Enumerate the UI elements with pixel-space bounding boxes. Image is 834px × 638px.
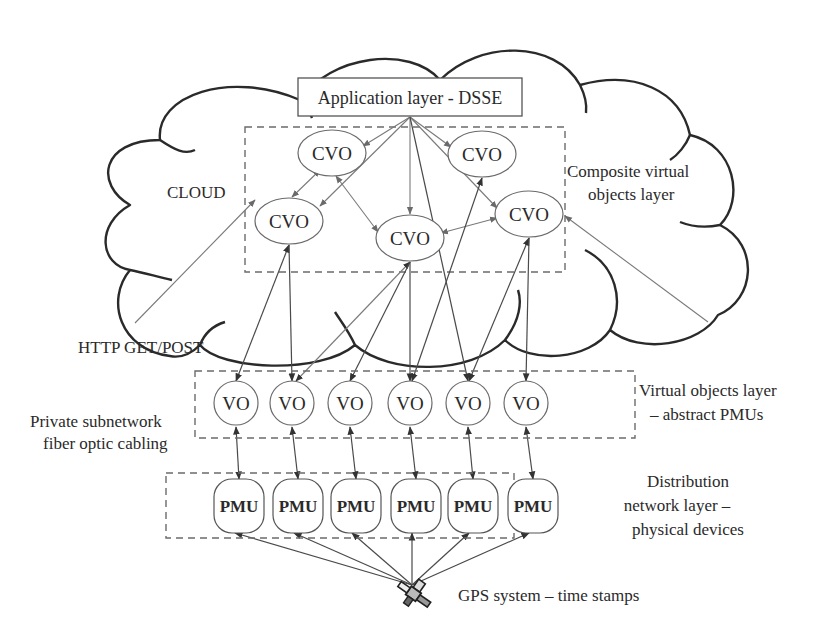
application-layer-label: Application layer - DSSE: [318, 88, 502, 108]
pmu-node: PMU: [214, 479, 264, 533]
pmu-label: PMU: [514, 497, 553, 516]
vo-label: VO: [278, 393, 305, 414]
vo-label: VO: [222, 393, 249, 414]
vo-layer-label-line2: – abstract PMUs: [649, 405, 763, 424]
pmu-label: PMU: [454, 497, 493, 516]
cvo-node: CVO: [298, 130, 366, 176]
vo-node: VO: [270, 381, 314, 425]
pmu-layer-label-line2: network layer –: [624, 496, 731, 515]
http-label: HTTP GET/POST: [78, 338, 204, 357]
vo-label: VO: [336, 393, 363, 414]
cvo-node: CVO: [495, 191, 563, 237]
private-network-label-line1: Private subnetwork: [30, 412, 162, 431]
vo-to-pmu-edge: [350, 427, 356, 479]
vo-to-pmu-edge: [410, 427, 416, 479]
private-network-label-line2: fiber optic cabling: [43, 434, 168, 453]
cvo-node: CVO: [376, 215, 444, 261]
gps-to-pmu-edge: [235, 533, 412, 585]
pmu-layer-label-line1: Distribution: [647, 472, 730, 491]
gps-label: GPS system – time stamps: [458, 586, 639, 605]
cvo-label: CVO: [390, 228, 430, 249]
pmu-node: PMU: [273, 479, 323, 533]
pmu-node: PMU: [331, 479, 381, 533]
pmu-node: PMU: [391, 479, 441, 533]
architecture-diagram: CLOUD Composite virtual objects layer Ap…: [0, 0, 834, 638]
cvo-node: CVO: [255, 198, 323, 244]
vo-to-pmu-edge: [526, 427, 533, 479]
pmu-layer-label-line3: physical devices: [632, 520, 744, 539]
cvo-label: CVO: [312, 143, 352, 164]
pmu-label: PMU: [337, 497, 376, 516]
application-layer-box: Application layer - DSSE: [298, 78, 522, 116]
vo-to-pmu-edge: [236, 427, 239, 479]
vo-label: VO: [396, 393, 423, 414]
satellite-icon: [392, 572, 438, 616]
cvo-label: CVO: [269, 211, 309, 232]
gps-to-pmu-edge: [294, 533, 412, 585]
vo-node: VO: [388, 381, 432, 425]
pmu-label: PMU: [397, 497, 436, 516]
gps-to-pmu-edge: [412, 533, 469, 585]
cvo-label: CVO: [509, 204, 549, 225]
cloud-label: CLOUD: [167, 183, 226, 202]
pmu-node: PMU: [508, 479, 558, 533]
cvo-node: CVO: [448, 131, 516, 177]
gps-to-pmu-edge: [352, 533, 412, 585]
vo-label: VO: [454, 393, 481, 414]
pmu-label: PMU: [220, 497, 259, 516]
gps-to-pmu-edge: [412, 533, 529, 585]
vo-label: VO: [512, 393, 539, 414]
pmu-node: PMU: [448, 479, 498, 533]
vo-to-pmu-edge: [292, 427, 298, 479]
vo-layer-label-line1: Virtual objects layer: [639, 381, 777, 400]
cvo-layer-label-line1: Composite virtual: [567, 162, 690, 181]
vo-node: VO: [214, 381, 258, 425]
cvo-label: CVO: [462, 144, 502, 165]
vo-node: VO: [504, 381, 548, 425]
cvo-layer-label-line2: objects layer: [588, 185, 675, 204]
vo-node: VO: [446, 381, 490, 425]
vo-node: VO: [328, 381, 372, 425]
pmu-label: PMU: [279, 497, 318, 516]
vo-to-pmu-edge: [468, 427, 473, 479]
